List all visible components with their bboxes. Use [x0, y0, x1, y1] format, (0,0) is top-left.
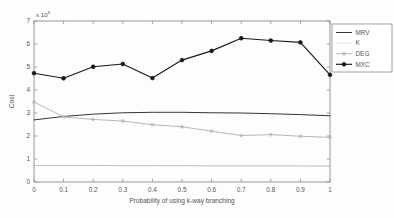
series-marker-mxc — [91, 65, 95, 69]
series-line-k — [34, 165, 330, 166]
series-marker-deg — [121, 119, 125, 123]
y-axis-title: Cost — [8, 95, 15, 109]
x-tick-label: 0.5 — [178, 186, 187, 193]
series-marker-mxc — [239, 36, 243, 40]
y-tick-label: 3 — [26, 109, 30, 116]
y-axis-exponent-label: x 108 — [36, 10, 51, 18]
line-chart: 00.10.20.30.40.50.60.70.80.9101234567x 1… — [0, 0, 394, 218]
series-marker-mxc — [210, 49, 214, 53]
series-marker-mxc — [121, 62, 125, 66]
series-marker-mxc — [62, 76, 66, 80]
series-marker-deg — [298, 134, 302, 138]
series-line-deg — [34, 102, 330, 137]
y-tick-label: 5 — [26, 63, 30, 70]
y-tick-label: 6 — [26, 40, 30, 47]
x-tick-label: 0.6 — [207, 186, 216, 193]
figure-container: 00.10.20.30.40.50.60.70.80.9101234567x 1… — [0, 0, 394, 218]
series-marker-deg — [209, 129, 213, 133]
series-marker-mxc — [151, 76, 155, 80]
series-marker-mxc — [299, 40, 303, 44]
series-marker-mxc — [32, 71, 36, 75]
x-tick-label: 0.8 — [266, 186, 275, 193]
y-tick-label: 1 — [26, 155, 30, 162]
series-marker-mxc — [180, 58, 184, 62]
axis-frame — [34, 21, 330, 182]
y-tick-label: 2 — [26, 132, 30, 139]
y-tick-label: 7 — [26, 17, 30, 24]
x-tick-label: 0.4 — [148, 186, 157, 193]
series-marker-mxc — [269, 39, 273, 43]
legend-label-mxc: MXC — [356, 61, 371, 68]
x-axis-title: Probability of using k-way branching — [129, 197, 235, 205]
legend-marker-mxc — [342, 62, 346, 66]
x-tick-label: 0.1 — [59, 186, 68, 193]
series-marker-deg — [91, 118, 95, 122]
x-tick-label: 0 — [32, 186, 36, 193]
axis-frame-top-right — [34, 21, 330, 182]
series-marker-deg — [61, 115, 65, 119]
series-marker-deg — [269, 133, 273, 137]
x-tick-label: 1 — [328, 186, 332, 193]
series-line-mrv — [34, 112, 330, 120]
series-marker-deg — [150, 123, 154, 127]
legend-label-deg: DEG — [356, 50, 370, 57]
legend-label-mrv: MRV — [356, 29, 371, 36]
y-tick-label: 0 — [26, 178, 30, 185]
series-marker-mxc — [328, 73, 332, 77]
y-tick-label: 4 — [26, 86, 30, 93]
series-marker-deg — [239, 134, 243, 138]
x-tick-label: 0.2 — [89, 186, 98, 193]
x-tick-label: 0.3 — [118, 186, 127, 193]
series-marker-deg — [180, 125, 184, 129]
legend-label-k: K — [356, 39, 361, 46]
x-tick-label: 0.7 — [237, 186, 246, 193]
x-tick-label: 0.9 — [296, 186, 305, 193]
